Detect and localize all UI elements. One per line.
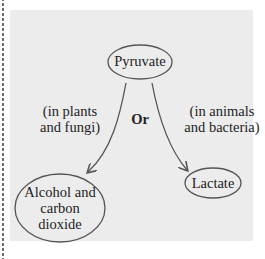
right-condition-line1: (in animals	[177, 103, 265, 119]
alcohol-label-line1: Alcohol and	[15, 184, 105, 200]
pyruvate-label: Pyruvate	[108, 53, 172, 69]
alcohol-label-line3: dioxide	[15, 216, 105, 232]
right-condition-line2: and bacteria)	[177, 119, 265, 135]
left-condition-line1: (in plants	[30, 103, 110, 119]
lactate-label: Lactate	[185, 175, 241, 191]
left-condition-line2: and fungi)	[30, 119, 110, 135]
or-label: Or	[125, 111, 155, 127]
alcohol-label-line2: carbon	[15, 200, 105, 216]
